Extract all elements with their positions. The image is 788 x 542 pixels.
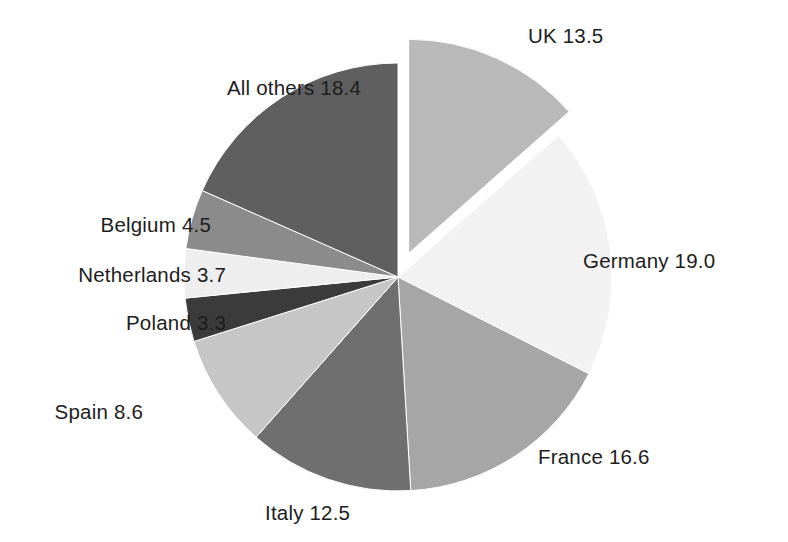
pie-label-poland: Poland 3.3: [0, 313, 226, 334]
pie-label-belgium: Belgium 4.5: [0, 215, 211, 236]
pie-chart-figure: UK 13.5 Germany 19.0 France 16.6 Italy 1…: [0, 0, 788, 542]
pie-label-uk: UK 13.5: [528, 26, 603, 47]
pie-label-all-others: All others 18.4: [61, 78, 361, 99]
pie-label-france: France 16.6: [538, 447, 650, 468]
pie-slices: [184, 39, 612, 491]
pie-label-germany: Germany 19.0: [583, 251, 715, 272]
pie-label-spain: Spain 8.6: [0, 402, 143, 423]
pie-label-italy: Italy 12.5: [265, 503, 350, 524]
pie-label-netherlands: Netherlands 3.7: [0, 265, 226, 286]
